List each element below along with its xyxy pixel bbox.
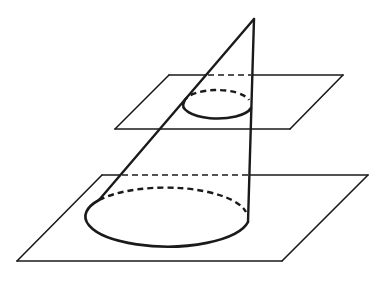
upper-plane — [115, 75, 343, 129]
cone-left-generator — [99, 19, 254, 200]
lower-plane-right-edge — [282, 175, 368, 261]
base-circle-hidden-arc — [99, 188, 246, 212]
lower-plane-left-edge — [17, 175, 102, 261]
base-circle-visible-arc — [85, 200, 248, 247]
section-circle — [183, 90, 251, 119]
cone-diagram — [0, 0, 388, 283]
lower-plane — [17, 175, 368, 261]
section-circle-hidden-arc — [184, 90, 249, 102]
base-circle — [85, 188, 248, 247]
section-circle-visible-arc — [183, 102, 251, 119]
upper-plane-left-edge — [115, 75, 169, 129]
upper-plane-right-edge — [290, 75, 343, 129]
cone-right-generator — [248, 19, 254, 222]
